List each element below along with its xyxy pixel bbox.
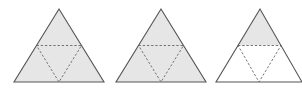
sub-triangle-top (238, 9, 281, 46)
triangle-figure-2 (116, 9, 206, 82)
sub-triangle-top (139, 9, 184, 46)
triangle-diagram (0, 0, 302, 93)
triangle-figure-3 (216, 9, 302, 82)
sub-triangle-top (37, 9, 82, 46)
triangle-figure-1 (14, 9, 104, 82)
